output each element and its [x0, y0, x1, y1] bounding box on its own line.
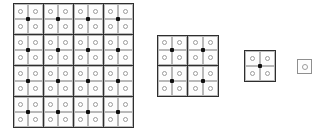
ring-marker: [78, 24, 83, 29]
ring-marker: [48, 9, 53, 14]
ring-marker: [208, 86, 213, 91]
cell: [14, 112, 29, 127]
ring-marker: [18, 24, 23, 29]
ring-marker: [123, 24, 128, 29]
cell: [44, 112, 59, 127]
block: [13, 65, 44, 97]
cell: [88, 50, 103, 65]
ring-marker: [265, 56, 270, 61]
block: [73, 34, 104, 66]
ring-marker: [108, 86, 113, 91]
cell: [104, 112, 119, 127]
ring-marker: [78, 102, 83, 107]
block: [73, 65, 104, 97]
center-dot-marker: [26, 48, 30, 52]
block: [244, 50, 276, 82]
ring-marker: [33, 86, 38, 91]
ring-marker: [48, 71, 53, 76]
ring-marker: [108, 24, 113, 29]
cell: [58, 81, 73, 96]
cell: [88, 97, 103, 112]
cell: [74, 50, 89, 65]
ring-marker: [93, 24, 98, 29]
cell: [203, 50, 218, 65]
cell: [28, 97, 43, 112]
ring-marker: [123, 40, 128, 45]
ring-marker: [78, 117, 83, 122]
center-dot-marker: [170, 79, 174, 83]
center-dot-marker: [86, 110, 90, 114]
ring-marker: [18, 117, 23, 122]
center-dot-marker: [86, 79, 90, 83]
ring-marker: [93, 40, 98, 45]
cell: [203, 66, 218, 81]
ring-marker: [108, 9, 113, 14]
center-dot-marker: [258, 64, 262, 68]
cell: [28, 50, 43, 65]
ring-marker: [63, 24, 68, 29]
cell: [104, 19, 119, 34]
ring-marker: [208, 40, 213, 45]
cell: [44, 81, 59, 96]
block: [43, 65, 74, 97]
block: [73, 96, 104, 128]
center-dot-marker: [56, 48, 60, 52]
cell: [158, 50, 173, 65]
block: [187, 35, 219, 67]
ring-marker: [78, 9, 83, 14]
ring-marker: [48, 55, 53, 60]
cell: [58, 66, 73, 81]
cell: [28, 81, 43, 96]
ring-marker: [18, 86, 23, 91]
ring-marker: [33, 117, 38, 122]
block: [103, 34, 134, 66]
cell: [58, 97, 73, 112]
cell: [172, 50, 187, 65]
ring-marker: [48, 102, 53, 107]
cell: [74, 19, 89, 34]
cell: [14, 81, 29, 96]
center-dot-marker: [26, 79, 30, 83]
ring-marker: [18, 55, 23, 60]
ring-marker: [93, 55, 98, 60]
ring-marker: [78, 71, 83, 76]
ring-marker: [78, 55, 83, 60]
center-dot-marker: [86, 48, 90, 52]
center-dot-marker: [116, 79, 120, 83]
cell: [118, 81, 133, 96]
block: [157, 35, 189, 67]
block: [13, 3, 44, 35]
ring-marker: [193, 55, 198, 60]
ring-marker: [18, 102, 23, 107]
block: [103, 3, 134, 35]
block: [43, 34, 74, 66]
cell: [28, 66, 43, 81]
ring-marker: [265, 71, 270, 76]
ring-marker: [193, 71, 198, 76]
ring-marker: [93, 102, 98, 107]
center-dot-marker: [56, 17, 60, 21]
cell: [58, 50, 73, 65]
cell: [118, 19, 133, 34]
ring-marker: [63, 55, 68, 60]
ring-marker: [108, 71, 113, 76]
ring-marker: [123, 9, 128, 14]
ring-marker: [33, 9, 38, 14]
cell: [28, 112, 43, 127]
cell: [28, 4, 43, 19]
cell: [88, 4, 103, 19]
ring-marker: [193, 40, 198, 45]
center-dot-marker: [116, 48, 120, 52]
center-dot-marker: [26, 17, 30, 21]
block: [103, 96, 134, 128]
ring-marker: [108, 55, 113, 60]
ring-marker: [162, 55, 167, 60]
cell: [74, 81, 89, 96]
block: [13, 96, 44, 128]
grid-level-4: [297, 59, 312, 74]
ring-marker: [63, 71, 68, 76]
cell: [158, 81, 173, 96]
grid-level-3: [244, 50, 275, 81]
ring-marker: [48, 86, 53, 91]
center-dot-marker: [116, 17, 120, 21]
